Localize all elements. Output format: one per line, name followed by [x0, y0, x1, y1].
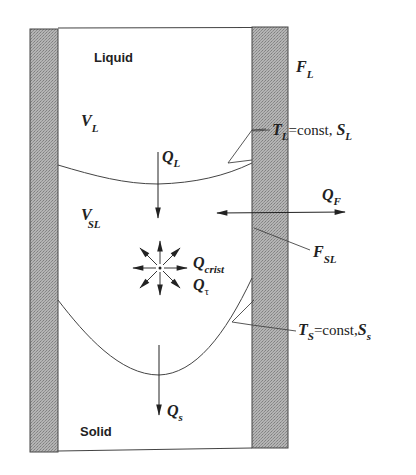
q-wall-label: QF — [322, 186, 342, 207]
crystallization-star-icon — [133, 241, 187, 295]
solidus-isotherm-curve — [58, 278, 252, 375]
q-crist-label: Qcrist — [193, 254, 225, 275]
liquidus-isotherm-curve — [58, 163, 252, 184]
f-solid-liquid-label: FSL — [312, 243, 337, 265]
q-wall-arrow — [217, 212, 345, 213]
bottom-boundary — [58, 448, 252, 451]
f-liquid-label: FL — [295, 58, 314, 80]
solidification-diagram: Liquid Solid VL VSL QL Qs Qcrist Qτ QF F… — [0, 0, 416, 475]
liquid-region-label: Liquid — [94, 50, 133, 65]
q-liquid-label: QL — [162, 148, 181, 169]
v-solid-liquid-label: VSL — [81, 206, 101, 230]
solid-region-label: Solid — [80, 424, 112, 439]
q-tau-label: Qτ — [193, 276, 210, 297]
solidus-isotherm-label: TS=const,Ss — [298, 321, 371, 342]
left-wall — [30, 29, 58, 452]
v-liquid-label: VL — [81, 112, 99, 134]
right-wall — [252, 27, 288, 448]
top-boundary — [58, 28, 252, 29]
q-solid-label: Qs — [167, 402, 183, 423]
